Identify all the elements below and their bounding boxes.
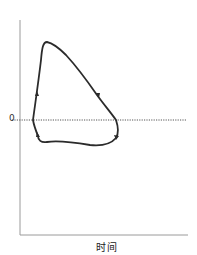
y-tick-zero: 0 (9, 113, 15, 123)
arrow-up-icon (35, 91, 39, 96)
chart-canvas (0, 0, 197, 255)
loop-curve (33, 42, 118, 145)
x-axis-label: 时间 (96, 239, 117, 254)
